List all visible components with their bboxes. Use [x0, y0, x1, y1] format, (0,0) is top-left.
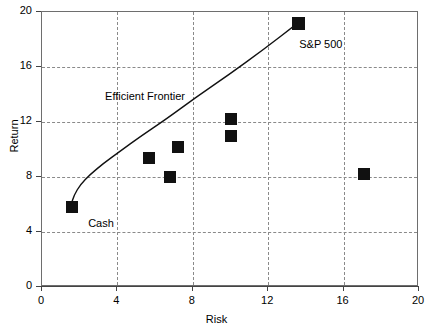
- chart-annotation: Cash: [88, 217, 114, 229]
- gridline-vertical: [268, 12, 269, 285]
- plot-area: [41, 11, 418, 286]
- data-point-marker: [172, 141, 184, 153]
- efficient-frontier-chart: 048121620 048121620 Efficient FrontierCa…: [0, 0, 433, 332]
- chart-annotation: S&P 500: [299, 38, 342, 50]
- gridline-vertical: [117, 12, 118, 285]
- x-tick-mark: [267, 286, 268, 291]
- y-axis-title: Return: [8, 106, 20, 166]
- y-tick-label: 0: [8, 280, 32, 291]
- gridline-horizontal: [42, 67, 417, 68]
- y-tick-mark: [36, 11, 41, 12]
- data-point-marker: [225, 113, 237, 125]
- data-point-marker: [66, 201, 78, 213]
- data-point-marker: [225, 130, 237, 142]
- x-tick-mark: [192, 286, 193, 291]
- y-tick-label: 16: [8, 60, 32, 71]
- x-tick-mark: [418, 286, 419, 291]
- gridline-vertical: [344, 12, 345, 285]
- y-tick-mark: [36, 121, 41, 122]
- data-point-marker: [164, 171, 176, 183]
- x-tick-mark: [41, 286, 42, 291]
- data-point-marker: [292, 17, 305, 30]
- y-tick-label: 20: [8, 5, 32, 16]
- gridline-vertical: [193, 12, 194, 285]
- x-tick-mark: [116, 286, 117, 291]
- x-tick-label: 20: [406, 295, 430, 306]
- x-axis-line: [41, 286, 419, 287]
- gridline-horizontal: [42, 232, 417, 233]
- x-tick-label: 0: [29, 295, 53, 306]
- x-tick-label: 4: [104, 295, 128, 306]
- y-tick-label: 8: [8, 170, 32, 181]
- data-point-marker: [358, 168, 370, 180]
- y-tick-mark: [36, 176, 41, 177]
- chart-annotation: Efficient Frontier: [105, 90, 185, 102]
- data-point-marker: [143, 152, 155, 164]
- x-axis-title: Risk: [0, 313, 433, 325]
- y-tick-mark: [36, 231, 41, 232]
- y-tick-label: 4: [8, 225, 32, 236]
- y-tick-mark: [36, 66, 41, 67]
- x-tick-label: 8: [180, 295, 204, 306]
- x-tick-mark: [343, 286, 344, 291]
- x-tick-label: 16: [331, 295, 355, 306]
- x-tick-label: 12: [255, 295, 279, 306]
